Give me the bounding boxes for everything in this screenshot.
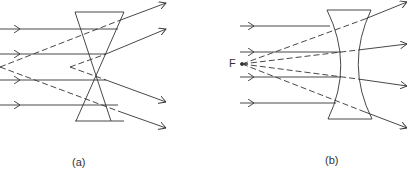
focal-point	[241, 63, 244, 66]
focal-label: F	[229, 57, 236, 69]
outgoing-rays-a	[106, 3, 166, 128]
incoming-rays-b	[240, 26, 341, 103]
caption-a: (a)	[72, 156, 85, 168]
lens-diagram	[0, 0, 407, 182]
outgoing-rays-b	[358, 2, 407, 128]
caption-b: (b)	[325, 154, 338, 166]
dashed-lines-b	[242, 19, 365, 112]
incoming-rays-a	[0, 29, 118, 105]
